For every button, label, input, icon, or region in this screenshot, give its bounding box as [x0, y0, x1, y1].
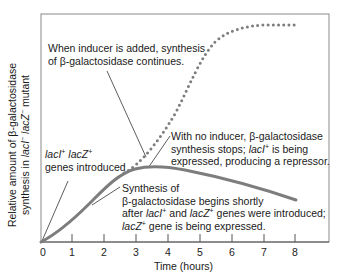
annotation-synthesis-begins: Synthesis of β-galactosidase begins shor…	[122, 182, 326, 232]
x-tick-label: 3	[130, 246, 142, 258]
annotation-genes-introduced: lacI+ lacZ+ genes introduced	[45, 148, 126, 173]
y-axis-title-line2: synthesis in lacI− lacZ− mutant	[19, 45, 32, 245]
x-ticks	[72, 234, 295, 242]
x-axis-title: Time (hours)	[154, 260, 213, 273]
annotation-no-inducer: With no inducer, β-galactosidase synthes…	[171, 130, 330, 168]
x-tick-label: 7	[258, 246, 270, 258]
y-axis-title: Relative amount of β-galactosidase synth…	[6, 45, 32, 245]
x-tick-label: 5	[194, 246, 206, 258]
x-tick-label: 2	[98, 246, 110, 258]
annotation-inducer-added: When inducer is added, synthesis of β-ga…	[48, 42, 205, 67]
x-tick-label: 4	[162, 246, 174, 258]
x-tick-label: 8	[289, 246, 301, 258]
x-tick-label: 0	[37, 246, 49, 258]
x-tick-label: 6	[226, 246, 238, 258]
x-tick-label: 1	[66, 246, 78, 258]
y-axis-title-line1: Relative amount of β-galactosidase	[6, 45, 19, 245]
